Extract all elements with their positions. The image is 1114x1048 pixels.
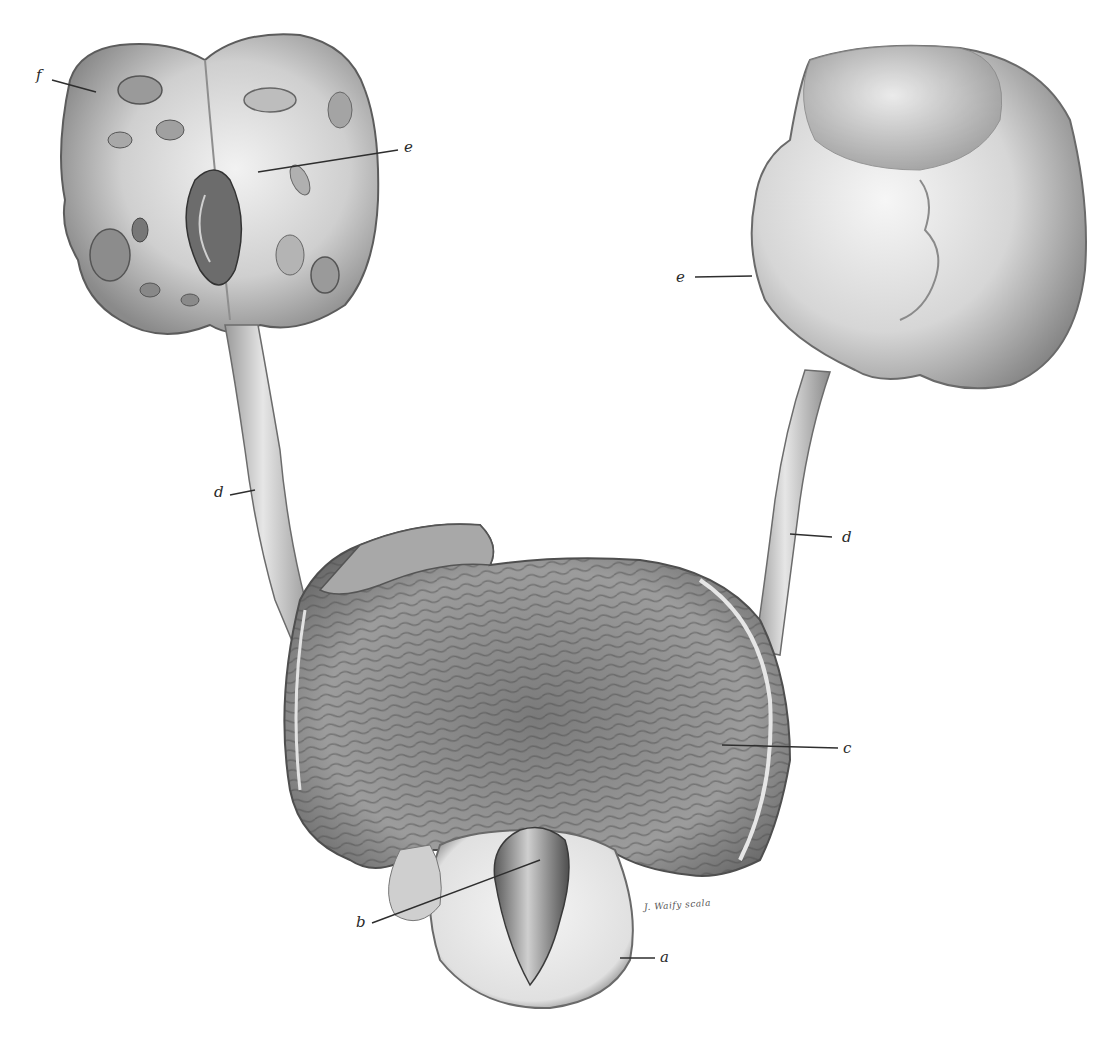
bladder bbox=[284, 524, 790, 876]
right-ureter bbox=[755, 370, 830, 655]
label-b: b bbox=[356, 915, 366, 930]
label-e-left: e bbox=[404, 140, 413, 155]
label-f: f bbox=[36, 68, 42, 83]
label-d-right: d bbox=[842, 530, 852, 545]
label-d-left: d bbox=[214, 485, 224, 500]
anatomical-plate bbox=[0, 0, 1114, 1048]
right-kidney bbox=[752, 46, 1086, 389]
label-e-right: e bbox=[676, 270, 685, 285]
label-a: a bbox=[660, 950, 669, 965]
label-c: c bbox=[843, 741, 851, 756]
left-kidney bbox=[61, 34, 378, 334]
